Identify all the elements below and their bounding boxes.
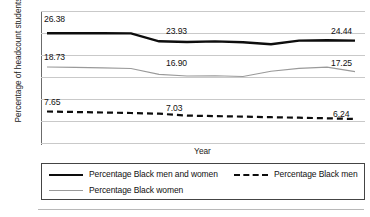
footer-divider — [38, 209, 364, 210]
x-axis-title: Year — [40, 146, 365, 156]
data-label-men-mid: 7.03 — [166, 103, 182, 113]
legend-swatch-solid-black-icon — [49, 168, 83, 180]
legend-swatch-dashed-black-icon — [234, 168, 268, 180]
data-label-mw-end: 24.44 — [331, 26, 352, 36]
gridlines — [41, 12, 365, 144]
series-line-black-women — [47, 67, 355, 77]
data-label-mw-start: 26.38 — [44, 14, 65, 24]
data-label-men-end: 6.24 — [333, 109, 349, 119]
data-label-women-end: 17.25 — [331, 58, 352, 68]
legend-label-men-and-women: Percentage Black men and women — [89, 169, 218, 179]
data-label-women-start: 18.73 — [44, 52, 65, 62]
legend-item-men: Percentage Black men — [234, 167, 358, 181]
legend-item-women: Percentage Black women — [49, 183, 183, 197]
series-line-black-men-and-women — [47, 33, 355, 44]
chart-figure: Percentage of headcount students 26.38 2… — [0, 0, 370, 217]
data-label-mw-mid: 23.93 — [166, 26, 187, 36]
chart-legend: Percentage Black men and women Percentag… — [41, 163, 365, 200]
series-line-black-men — [47, 112, 355, 120]
legend-label-men: Percentage Black men — [274, 169, 358, 179]
legend-swatch-solid-gray-icon — [49, 184, 83, 196]
data-label-women-mid: 16.90 — [166, 58, 187, 68]
legend-label-women: Percentage Black women — [89, 185, 183, 195]
legend-item-men-and-women: Percentage Black men and women — [49, 167, 218, 181]
data-label-men-start: 7.65 — [44, 97, 60, 107]
